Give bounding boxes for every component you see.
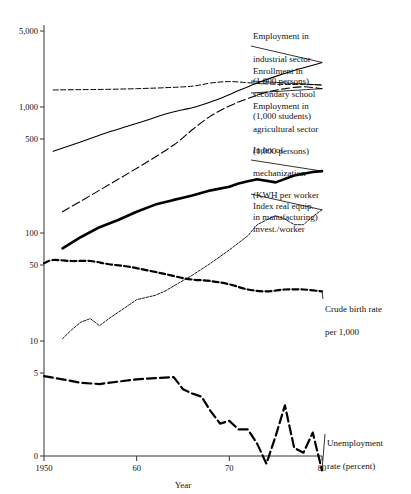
series-label-line: rate (percent)	[327, 461, 383, 472]
series-label-line: Crude birth rate	[325, 304, 382, 315]
series-label-line: per 1,000	[325, 327, 382, 338]
y-axis-tick-label: 50	[30, 260, 39, 270]
y-axis-tick-label: 5	[34, 368, 38, 378]
series-label-line: Index of	[253, 145, 319, 156]
chart-plot-area: 5,0001,0005001005010501950607080Year	[0, 0, 411, 494]
series-label-line: Employment in	[253, 101, 318, 112]
series-label-line: Index real equip.	[253, 201, 314, 212]
chart-figure: 5,0001,0005001005010501950607080Year Emp…	[0, 0, 411, 494]
y-axis-tick-label: 500	[25, 134, 38, 144]
series-label-equipment-investment: Index real equip. invest./worker	[253, 190, 314, 246]
series-label-line: Enrollment in	[253, 66, 315, 77]
y-axis-tick-label: 10	[30, 336, 39, 346]
series-label-line: Employment in	[253, 31, 311, 42]
series-label-unemployment-rate: Unemployment rate (percent)	[327, 427, 383, 483]
series-label-line: Unemployment	[327, 438, 383, 449]
leader-line-6	[322, 291, 323, 299]
series-label-line: mechanization	[253, 168, 319, 179]
x-axis-tick-label: 70	[225, 463, 234, 473]
y-axis-tick-label: 100	[25, 228, 38, 238]
y-axis-tick-label: 5,000	[19, 26, 38, 36]
series-label-crude-birth-rate: Crude birth rate per 1,000	[325, 293, 382, 349]
x-axis-tick-label: 60	[132, 463, 141, 473]
series-label-line: invest./worker	[253, 224, 314, 235]
y-axis-tick-label: 0	[34, 451, 38, 461]
x-axis-title: Year	[175, 480, 192, 490]
y-axis-tick-label: 1,000	[19, 102, 38, 112]
chart-series-line-6	[44, 260, 322, 291]
x-axis-tick-label: 1950	[36, 463, 53, 473]
